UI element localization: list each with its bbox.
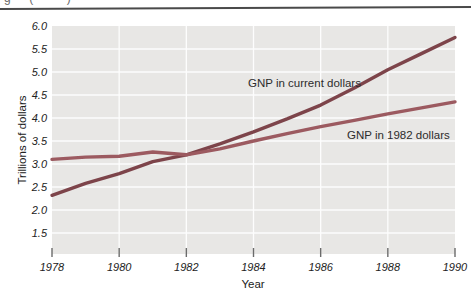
x-tick-label: 1980 [99, 261, 139, 273]
x-tick-label: 1990 [435, 261, 471, 273]
y-tick-label: 2.0 [17, 204, 47, 216]
y-tick-label: 4.0 [17, 112, 47, 124]
plot-area [0, 0, 471, 303]
x-axis-title: Year [203, 278, 303, 290]
x-tick-label: 1978 [32, 261, 72, 273]
x-tick-label: 1984 [234, 261, 274, 273]
x-tick-label: 1986 [301, 261, 341, 273]
y-tick-label: 3.5 [17, 135, 47, 147]
series-label-current-dollars: GNP in current dollars [248, 77, 361, 89]
y-tick-label: 1.5 [17, 227, 47, 239]
series-label-1982-dollars: GNP in 1982 dollars [347, 129, 450, 141]
x-tick-label: 1982 [166, 261, 206, 273]
y-tick-label: 6.0 [17, 20, 47, 32]
y-tick-label: 5.5 [17, 43, 47, 55]
gnp-figure: g ( ) Trillions of dollars 6.05.55.04.54… [0, 0, 471, 303]
y-tick-label: 2.5 [17, 181, 47, 193]
x-tick-label: 1988 [368, 261, 408, 273]
y-tick-label: 5.0 [17, 66, 47, 78]
y-tick-label: 3.0 [17, 158, 47, 170]
y-tick-label: 4.5 [17, 89, 47, 101]
